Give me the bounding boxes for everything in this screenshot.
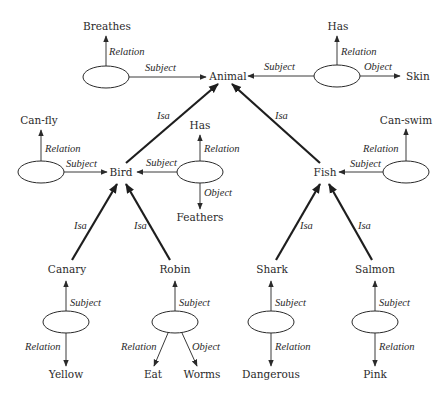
isa-arrow-fish-animal xyxy=(232,84,320,163)
edge-label-isa: Isa xyxy=(133,220,147,231)
edge-label-subject: Subject xyxy=(350,158,382,169)
value-pink: Pink xyxy=(363,368,387,380)
proposition-node xyxy=(314,65,360,87)
edge-label-subject: Subject xyxy=(264,61,296,72)
edge-label-relation: Relation xyxy=(362,143,399,154)
edge-label-subject: Subject xyxy=(275,297,307,308)
edge-label-isa: Isa xyxy=(156,110,170,121)
edge-label-isa: Isa xyxy=(357,220,371,231)
proposition-canary-yellow: Canary Subject Relation Yellow xyxy=(24,263,102,380)
edge-label-subject: Subject xyxy=(146,157,178,168)
value-dangerous: Dangerous xyxy=(242,368,300,380)
value-feathers: Feathers xyxy=(177,211,224,223)
concept-robin: Robin xyxy=(159,263,190,275)
proposition-node xyxy=(177,161,223,183)
concept-animal: Animal xyxy=(208,70,247,82)
edge-label-subject: Subject xyxy=(70,297,102,308)
proposition-bird-has-feathers: Has Relation Subject Object Feathers xyxy=(137,119,240,223)
proposition-node xyxy=(18,161,64,183)
edge-label-relation: Relation xyxy=(24,341,61,352)
proposition-salmon-pink: Salmon Subject Relation Pink xyxy=(352,263,415,380)
edge-label-relation: Relation xyxy=(340,46,377,57)
proposition-node xyxy=(352,311,398,333)
proposition-node xyxy=(83,66,129,88)
proposition-fish-can-swim: Can-swim Relation Subject xyxy=(339,114,432,183)
proposition-animal-breathes: Breathes Relation Subject xyxy=(83,20,206,88)
edge-label-isa: Isa xyxy=(299,220,313,231)
edge-label-relation: Relation xyxy=(120,341,157,352)
value-eat: Eat xyxy=(144,368,163,380)
edge-label-subject: Subject xyxy=(379,297,411,308)
edge-label-relation: Relation xyxy=(203,143,240,154)
edge-label-isa: Isa xyxy=(73,220,87,231)
proposition-node xyxy=(152,311,198,333)
edge-label-object: Object xyxy=(192,341,221,352)
isa-arrow-shark-fish xyxy=(276,184,320,260)
concept-salmon: Salmon xyxy=(355,263,395,275)
value-skin: Skin xyxy=(406,70,430,82)
proposition-shark-dangerous: Shark Subject Relation Dangerous xyxy=(242,263,311,380)
proposition-animal-has-skin: Has Relation Subject Object Skin xyxy=(248,20,430,87)
value-breathes: Breathes xyxy=(83,20,131,32)
proposition-node xyxy=(248,311,294,333)
value-can-fly: Can-fly xyxy=(20,114,58,126)
concept-bird: Bird xyxy=(110,166,133,178)
value-yellow: Yellow xyxy=(48,368,83,380)
isa-arrow-robin-bird xyxy=(126,184,170,260)
edge-label-isa: Isa xyxy=(274,110,288,121)
proposition-node xyxy=(43,311,89,333)
value-worms: Worms xyxy=(184,368,221,380)
edge-label-object: Object xyxy=(204,187,233,198)
value-has: Has xyxy=(190,119,211,131)
edge-label-subject: Subject xyxy=(179,297,211,308)
proposition-robin-eat-worms: Robin Subject Relation Object Eat Worms xyxy=(120,263,221,380)
edge-label-relation: Relation xyxy=(44,143,81,154)
value-has: Has xyxy=(328,20,349,32)
edge-label-subject: Subject xyxy=(145,62,177,73)
edge-label-subject: Subject xyxy=(66,158,98,169)
edge-label-relation: Relation xyxy=(274,341,311,352)
edge-label-relation: Relation xyxy=(378,341,415,352)
edge-label-relation: Relation xyxy=(108,46,145,57)
proposition-bird-can-fly: Can-fly Relation Subject xyxy=(18,114,107,183)
concept-canary: Canary xyxy=(48,263,86,275)
concept-shark: Shark xyxy=(256,263,288,275)
semantic-network-diagram: Breathes Relation Subject Animal Has Rel… xyxy=(0,0,446,397)
value-can-swim: Can-swim xyxy=(380,114,432,126)
proposition-node xyxy=(383,161,429,183)
concept-fish: Fish xyxy=(314,166,337,178)
edge-label-object: Object xyxy=(364,61,393,72)
